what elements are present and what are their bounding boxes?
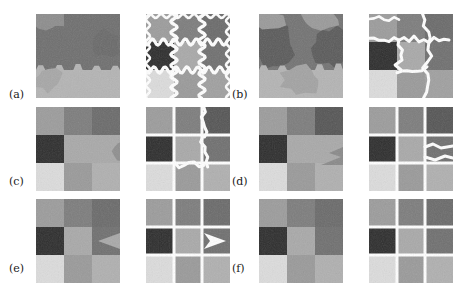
region-cell — [315, 227, 343, 255]
region-cell — [259, 163, 287, 191]
region-cell — [369, 42, 397, 70]
panel-label-c: (c) — [9, 176, 24, 187]
panel-label-b: (b) — [232, 89, 248, 100]
region-group — [146, 14, 230, 98]
panel-e-image — [36, 199, 120, 283]
panel-c-segmentation — [146, 107, 230, 191]
region-cell — [146, 227, 174, 255]
region-cell — [174, 255, 202, 283]
region-cell — [287, 199, 315, 227]
region-cell — [315, 199, 343, 227]
panel-f-segmentation — [369, 199, 453, 283]
panel-a-segmentation — [146, 14, 230, 98]
region-cell — [64, 135, 120, 163]
region-cell — [64, 227, 92, 255]
region-group — [259, 199, 343, 283]
region-cell — [369, 255, 397, 283]
region-cell — [174, 227, 202, 255]
region-cell — [315, 107, 343, 135]
region-cell — [174, 199, 202, 227]
panel-e-segmentation — [146, 199, 230, 283]
region-cell — [369, 107, 397, 135]
region-cell — [425, 227, 453, 255]
region-cell — [202, 199, 230, 227]
panel-d-segmentation — [369, 107, 453, 191]
region-cell — [92, 107, 120, 135]
region-cell — [425, 255, 453, 283]
panel-b-segmentation — [369, 14, 453, 98]
region-cell — [202, 255, 230, 283]
region-cell — [174, 135, 202, 163]
panel-f-image — [259, 199, 343, 283]
region-cell — [397, 70, 425, 98]
region-cell — [92, 255, 120, 283]
region-cell — [397, 163, 425, 191]
panel-d-image — [259, 107, 343, 191]
region-cell — [369, 135, 397, 163]
region-group — [36, 107, 120, 191]
region-cell — [64, 163, 92, 191]
region-cell — [64, 199, 92, 227]
panel-label-a: (a) — [9, 89, 24, 100]
region-cell — [425, 199, 453, 227]
region-cell — [369, 199, 397, 227]
region-group — [369, 14, 453, 98]
region-cell — [425, 107, 453, 135]
region-cell — [425, 163, 453, 191]
panel-label-d: (d) — [232, 176, 248, 187]
region-cell — [287, 227, 315, 255]
region-cell — [259, 199, 287, 227]
panel-label-f: (f) — [232, 263, 245, 274]
region-cell — [287, 135, 343, 163]
region-cell — [259, 255, 287, 283]
region-cell — [397, 227, 425, 255]
panel-c-image — [36, 107, 120, 191]
region-cell — [369, 70, 397, 98]
panel-b-image — [259, 14, 343, 98]
region-cell — [397, 199, 425, 227]
region-cell — [146, 163, 174, 191]
region-cell — [146, 135, 174, 163]
region-cell — [369, 163, 397, 191]
region-cell — [36, 135, 64, 163]
region-cell — [369, 227, 397, 255]
region-cell — [36, 227, 64, 255]
region-cell — [287, 107, 315, 135]
region-group — [369, 199, 453, 283]
region-cell — [146, 199, 174, 227]
segmentation-results-figure: (a)(b)(c)(d)(e)(f) — [0, 0, 470, 300]
region-cell — [64, 255, 92, 283]
region-cell — [36, 255, 64, 283]
panel-a-image — [36, 14, 120, 98]
region-cell — [259, 135, 287, 163]
region-cell — [92, 163, 120, 191]
region-cell — [36, 163, 64, 191]
region-cell — [287, 163, 315, 191]
region-cell — [315, 163, 343, 191]
region-cell — [287, 255, 315, 283]
region-cell — [259, 107, 287, 135]
region-cell — [92, 199, 120, 227]
panel-label-e: (e) — [9, 263, 24, 274]
region-cell — [315, 255, 343, 283]
region-cell — [36, 107, 64, 135]
region-cell — [174, 107, 202, 135]
region-cell — [64, 107, 92, 135]
region-group — [259, 107, 343, 191]
region-group — [146, 107, 230, 191]
region-cell — [397, 135, 425, 163]
region-cell — [397, 107, 425, 135]
region-cell — [146, 107, 174, 135]
region-cell — [146, 255, 174, 283]
region-cell — [397, 255, 425, 283]
region-cell — [36, 199, 64, 227]
region-cell — [259, 227, 287, 255]
